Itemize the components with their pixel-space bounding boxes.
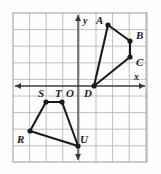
vertex-point-t (59, 99, 64, 104)
y-axis-label: y (83, 16, 87, 26)
vertex-label-b: B (136, 30, 143, 41)
x-axis-label: x (134, 72, 139, 82)
vertex-label-r: R (17, 134, 24, 145)
coordinate-plane-figure: ABCDRSTUxyO (0, 0, 161, 174)
vertex-point-r (27, 128, 32, 133)
vertex-point-a (105, 22, 110, 27)
vertex-label-s: S (38, 88, 44, 99)
vertex-point-s (43, 99, 48, 104)
vertex-point-d (91, 83, 96, 88)
vertex-label-u: U (80, 134, 88, 145)
vertex-point-c (127, 54, 132, 59)
vertex-label-t: T (55, 88, 62, 99)
origin-label: O (66, 88, 74, 99)
vertex-label-c: C (136, 57, 143, 68)
figure-canvas (0, 0, 161, 174)
vertex-point-b (127, 38, 132, 43)
vertex-label-d: D (84, 88, 92, 99)
vertex-label-a: A (96, 15, 103, 26)
